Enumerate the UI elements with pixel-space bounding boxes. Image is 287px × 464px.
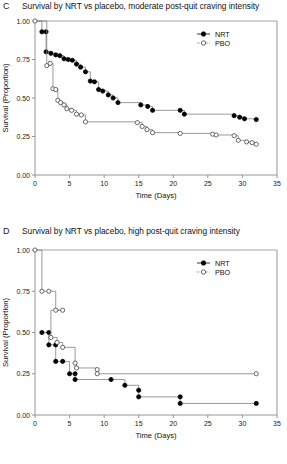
svg-text:35: 35 xyxy=(273,420,281,427)
panel-d-plot: 0.000.250.500.751.0005101520253035Time (… xyxy=(0,225,287,464)
svg-text:0.50: 0.50 xyxy=(16,95,30,102)
svg-text:35: 35 xyxy=(273,180,281,187)
svg-text:PBO: PBO xyxy=(215,268,231,277)
panel-c: C Survival by NRT vs placebo, moderate p… xyxy=(0,0,287,225)
panel-c-plot: 0.000.250.500.751.0005101520253035Time (… xyxy=(0,0,287,225)
svg-text:25: 25 xyxy=(204,420,212,427)
svg-text:0.00: 0.00 xyxy=(16,412,30,419)
svg-text:1.00: 1.00 xyxy=(16,18,30,25)
svg-text:30: 30 xyxy=(239,420,247,427)
svg-text:5: 5 xyxy=(68,420,72,427)
svg-text:0.25: 0.25 xyxy=(16,370,30,377)
svg-text:25: 25 xyxy=(204,180,212,187)
svg-text:0.00: 0.00 xyxy=(16,172,30,179)
svg-text:NRT: NRT xyxy=(215,259,230,268)
svg-text:30: 30 xyxy=(239,180,247,187)
svg-text:15: 15 xyxy=(135,420,143,427)
svg-text:10: 10 xyxy=(100,180,108,187)
svg-text:NRT: NRT xyxy=(215,30,230,39)
svg-text:20: 20 xyxy=(169,180,177,187)
svg-text:0: 0 xyxy=(33,180,37,187)
svg-text:PBO: PBO xyxy=(215,39,231,48)
svg-text:0: 0 xyxy=(33,420,37,427)
svg-text:5: 5 xyxy=(68,180,72,187)
svg-text:0.25: 0.25 xyxy=(16,133,30,140)
svg-text:Time (Days): Time (Days) xyxy=(135,191,177,200)
svg-text:Time (Days): Time (Days) xyxy=(135,431,177,440)
svg-text:0.75: 0.75 xyxy=(16,56,30,63)
svg-text:20: 20 xyxy=(169,420,177,427)
svg-text:15: 15 xyxy=(135,180,143,187)
svg-text:Survival (Proportion): Survival (Proportion) xyxy=(1,63,10,133)
svg-text:1.00: 1.00 xyxy=(16,247,30,254)
svg-text:10: 10 xyxy=(100,420,108,427)
svg-text:0.75: 0.75 xyxy=(16,288,30,295)
panel-d: D Survival by NRT vs placebo, high post-… xyxy=(0,225,287,464)
svg-text:Survival (Proportion): Survival (Proportion) xyxy=(1,297,10,367)
svg-text:0.50: 0.50 xyxy=(16,329,30,336)
